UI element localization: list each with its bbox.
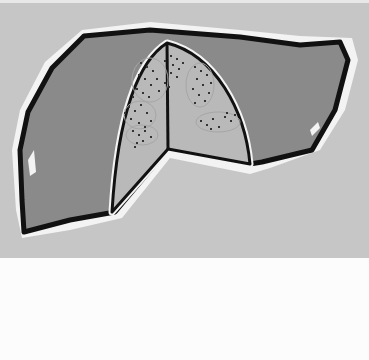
liver-illustration	[0, 0, 369, 360]
cutaway-center-line	[167, 43, 168, 149]
liver-figure	[0, 0, 369, 360]
